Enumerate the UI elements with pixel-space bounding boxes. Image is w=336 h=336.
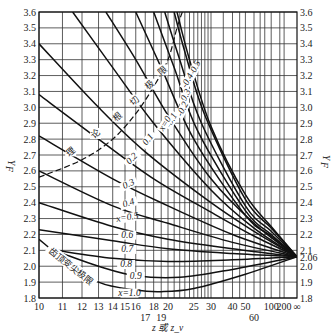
y-tick-label-left: 3.2 (24, 70, 37, 81)
x-tick-label: 15 (120, 301, 130, 312)
y-axis-label-right: Y (321, 155, 331, 162)
y-tick-label-right: 2.3 (300, 213, 313, 224)
y-tick-label-right: 3.1 (300, 86, 313, 97)
y-tick-label-right: 3.2 (300, 70, 313, 81)
y-axis-subscript-right: F (319, 161, 329, 168)
y-tick-label-left: 2.8 (24, 134, 37, 145)
tooth-form-factor-chart: 3.63.63.53.53.43.43.33.33.23.23.13.13.03… (0, 0, 336, 336)
y-tick-label-right: 3.5 (300, 22, 313, 33)
x-tick-label: ∞ (293, 301, 300, 312)
x-tick-label: 50 (240, 301, 250, 312)
x-tick-label: 200 (277, 301, 292, 312)
x-tick-label: 14 (108, 301, 118, 312)
y-tick-label-left: 2.6 (24, 165, 37, 176)
curve-label: x=1.0 (117, 288, 141, 298)
y-tick-label-left: 3.6 (24, 7, 37, 18)
x-tick-label: 40 (228, 301, 238, 312)
curve-label: 0.7 (121, 244, 134, 254)
curve-label: 0.6 (121, 230, 133, 240)
y-tick-label-right: 2.5 (300, 181, 313, 192)
y-tick-label-left: 3.3 (24, 54, 37, 65)
y-tick-label-left: 3.5 (24, 22, 37, 33)
y-tick-label-left: 2.7 (24, 150, 37, 161)
y-tick-label-left: 2.5 (24, 181, 37, 192)
x-tick-label: 20 (163, 301, 173, 312)
y-tick-label-right: 2.4 (300, 197, 313, 208)
y-tick-label-left: 3.0 (24, 102, 37, 113)
y-tick-label-left: 2.9 (24, 118, 37, 129)
x-axis-label: z 或 z_v (151, 323, 184, 333)
y-tick-label-right: 2.8 (300, 134, 313, 145)
y-tick-label-206: 2.06 (300, 252, 318, 263)
y-tick-label-right: 3.0 (300, 102, 313, 113)
x-tick-label: 30 (206, 301, 216, 312)
x-tick-label: 18 (149, 301, 159, 312)
x-tick-label: 25 (189, 301, 199, 312)
curve-label: 0.9 (130, 271, 142, 281)
curve-label: 0.8 (120, 259, 132, 269)
y-axis-subscript-left: F (4, 165, 14, 172)
y-tick-label-left: 2.4 (24, 197, 37, 208)
y-tick-label-left: 2.1 (24, 245, 37, 256)
y-tick-label-right: 1.9 (300, 277, 313, 288)
x-tick-label: 17 (140, 312, 150, 323)
y-tick-label-right: 2.6 (300, 165, 313, 176)
y-tick-label-right: 3.4 (300, 38, 313, 49)
x-tick-label: 16 (131, 301, 141, 312)
axes: 3.63.63.53.53.43.43.33.33.23.23.13.13.03… (24, 7, 318, 324)
y-tick-label-right: 2.2 (300, 229, 313, 240)
y-tick-label-right: 2.7 (300, 150, 313, 161)
x-tick-label: 10 (34, 301, 44, 312)
y-tick-label-left: 3.1 (24, 86, 37, 97)
y-tick-label-right: 1.8 (300, 293, 313, 304)
x-tick-label: 19 (156, 312, 166, 323)
curve-x-0.1 (136, 12, 297, 257)
x-tick-label: 60 (249, 312, 259, 323)
x-tick-label: 11 (58, 301, 68, 312)
y-tick-label-right: 2.9 (300, 118, 313, 129)
y-tick-label-right: 3.3 (300, 54, 313, 65)
y-tick-label-left: 2.3 (24, 213, 37, 224)
x-tick-label: 13 (94, 301, 104, 312)
y-tick-label-left: 1.9 (24, 277, 37, 288)
x-tick-label: 12 (77, 301, 87, 312)
y-tick-label-left: 3.4 (24, 38, 37, 49)
y-tick-label-left: 2.2 (24, 229, 37, 240)
y-tick-label-left: 2.0 (24, 261, 37, 272)
y-tick-label-right: 3.6 (300, 7, 313, 18)
